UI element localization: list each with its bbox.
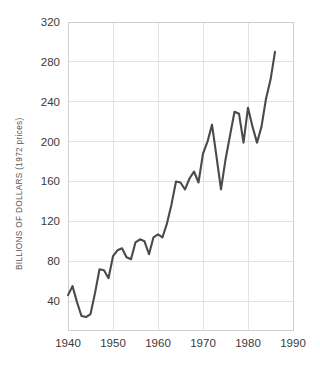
x-tick-label-1970: 1970	[190, 337, 216, 349]
y-tick-label-280: 280	[41, 56, 60, 68]
y-axis-title: BILLIONS OF DOLLARS (1972 prices)	[15, 117, 24, 270]
x-tick-label-1990: 1990	[280, 337, 306, 349]
y-tick-label-40: 40	[47, 295, 60, 307]
x-tick-label-1980: 1980	[235, 337, 261, 349]
y-tick-label-80: 80	[47, 255, 60, 267]
x-tick-label-1940: 1940	[55, 337, 81, 349]
chart-svg: 4080120160200240280320 19401950196019701…	[0, 0, 320, 374]
y-tick-label-200: 200	[41, 136, 60, 148]
x-tick-label-1960: 1960	[145, 337, 171, 349]
y-tick-label-160: 160	[41, 175, 60, 187]
x-tick-label-1950: 1950	[100, 337, 126, 349]
y-tick-label-240: 240	[41, 96, 60, 108]
y-tick-label-120: 120	[41, 215, 60, 227]
y-tick-label-320: 320	[41, 16, 60, 28]
line-chart: 4080120160200240280320 19401950196019701…	[0, 0, 320, 374]
